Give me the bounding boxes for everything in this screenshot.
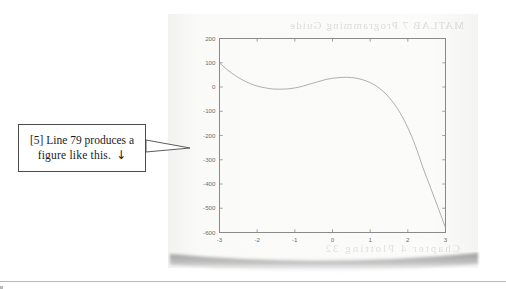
footer-divider: [0, 281, 506, 282]
scanned-page: MATLAB 7 Programming Guide Chapter 4 Plo…: [168, 14, 478, 268]
bleed-through-text-top: MATLAB 7 Programming Guide: [182, 19, 464, 34]
callout-annotation-box: [5] Line 79 produces a figure like this.…: [18, 124, 146, 172]
callout-line-2-wrapper: figure like this.↓: [38, 148, 127, 163]
callout-line-1: [5] Line 79 produces a: [30, 133, 134, 148]
page-tint: [168, 14, 478, 268]
callout-line-2-text: figure like this.: [38, 149, 111, 161]
down-arrow-icon: ↓: [111, 148, 126, 162]
bleed-through-text-bottom: Chapter 4 Plotting 32: [188, 242, 460, 256]
